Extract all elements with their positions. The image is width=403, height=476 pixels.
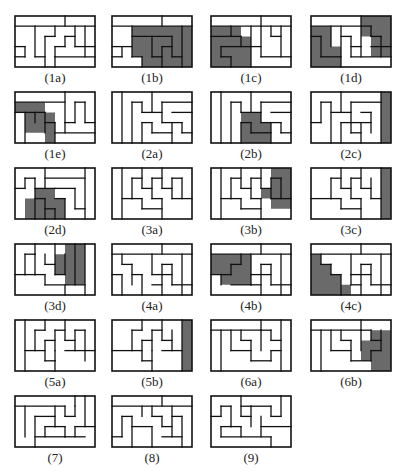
panel-label: (1a) xyxy=(14,70,96,86)
panel-label: (5b) xyxy=(111,374,193,390)
tiling-grid xyxy=(310,243,392,296)
tiling-grid xyxy=(111,395,193,448)
panel-label: (7) xyxy=(14,450,96,466)
tiling-grid xyxy=(210,167,292,220)
panel-label: (1d) xyxy=(310,70,392,86)
panel-label: (2d) xyxy=(14,222,96,238)
panel-label: (6b) xyxy=(310,374,392,390)
panel-label: (2a) xyxy=(111,146,193,162)
tiling-grid xyxy=(14,15,96,68)
tiling-grid xyxy=(111,243,193,296)
tiling-grid xyxy=(111,319,193,372)
tiling-panel: (2b) xyxy=(210,91,292,144)
tiling-grid xyxy=(310,91,392,144)
panel-label: (2c) xyxy=(310,146,392,162)
tiling-panel: (2d) xyxy=(14,167,96,220)
tiling-panel: (3b) xyxy=(210,167,292,220)
shaded-region xyxy=(182,320,192,371)
panel-label: (4a) xyxy=(111,298,193,314)
tiling-panel: (6b) xyxy=(310,319,392,372)
shaded-region xyxy=(381,168,391,219)
tiling-panel: (9) xyxy=(210,395,292,448)
tiling-grid xyxy=(14,91,96,144)
tiling-panel: (1d) xyxy=(310,15,392,68)
panel-label: (1e) xyxy=(14,146,96,162)
tiling-grid xyxy=(14,319,96,372)
shaded-region xyxy=(241,112,271,143)
tiling-panel: (2c) xyxy=(310,91,392,144)
tiling-panel: (2a) xyxy=(111,91,193,144)
shaded-region xyxy=(311,26,341,67)
tiling-grid xyxy=(310,167,392,220)
panel-label: (3b) xyxy=(210,222,292,238)
tiling-grid xyxy=(111,91,193,144)
panel-label: (5a) xyxy=(14,374,96,390)
panel-label: (8) xyxy=(111,450,193,466)
panel-label: (9) xyxy=(210,450,292,466)
tiling-grid xyxy=(310,319,392,372)
panel-label: (1c) xyxy=(210,70,292,86)
tiling-panel: (4c) xyxy=(310,243,392,296)
tiling-grid xyxy=(111,15,193,68)
tiling-panel: (1b) xyxy=(111,15,193,68)
tiling-grid xyxy=(310,15,392,68)
tiling-grid xyxy=(14,395,96,448)
panel-label: (2b) xyxy=(210,146,292,162)
tiling-grid xyxy=(210,91,292,144)
tiling-panel: (1c) xyxy=(210,15,292,68)
tiling-grid xyxy=(210,243,292,296)
shaded-region xyxy=(55,244,85,285)
tiling-panel: (3d) xyxy=(14,243,96,296)
panel-label: (1b) xyxy=(111,70,193,86)
tiling-grid xyxy=(14,243,96,296)
tiling-panel: (3a) xyxy=(111,167,193,220)
tiling-panel: (8) xyxy=(111,395,193,448)
shaded-region xyxy=(381,92,391,143)
tiling-panel: (7) xyxy=(14,395,96,448)
panel-label: (3c) xyxy=(310,222,392,238)
tiling-panel: (4b) xyxy=(210,243,292,296)
tiling-panel: (5a) xyxy=(14,319,96,372)
tiling-grid xyxy=(210,15,292,68)
tiling-grid xyxy=(14,167,96,220)
tiling-panel: (3c) xyxy=(310,167,392,220)
panel-label: (4b) xyxy=(210,298,292,314)
tiling-panel: (5b) xyxy=(111,319,193,372)
tiling-grid xyxy=(111,167,193,220)
tiling-grid xyxy=(210,395,292,448)
tiling-panel: (4a) xyxy=(111,243,193,296)
tiling-panel: (1e) xyxy=(14,91,96,144)
panel-label: (3a) xyxy=(111,222,193,238)
tiling-panel: (1a) xyxy=(14,15,96,68)
tiling-grid xyxy=(210,319,292,372)
panel-label: (3d) xyxy=(14,298,96,314)
panel-label: (4c) xyxy=(310,298,392,314)
tiling-panel: (6a) xyxy=(210,319,292,372)
panel-label: (6a) xyxy=(210,374,292,390)
